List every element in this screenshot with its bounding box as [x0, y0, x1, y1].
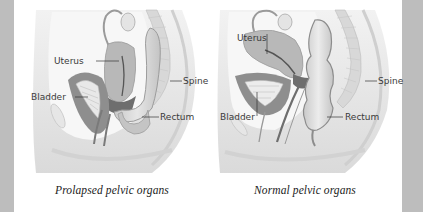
- rectum-label: Rectum: [345, 112, 379, 122]
- right-border-bar: [402, 0, 423, 212]
- uterus-label: Uterus: [237, 33, 267, 43]
- uterus-label: Uterus: [54, 56, 84, 66]
- left-border-bar: [0, 0, 14, 212]
- prolapsed-diagram-panel: Uterus Bladder Spine Rectum Prolapsed pe…: [22, 0, 202, 212]
- spine-label: Spine: [378, 76, 403, 86]
- bladder-label: Bladder: [31, 92, 66, 102]
- bladder-label: Bladder: [220, 112, 255, 122]
- normal-pelvis-illustration: [215, 0, 395, 180]
- rectum-label: Rectum: [160, 112, 194, 122]
- normal-caption: Normal pelvic organs: [215, 184, 395, 196]
- spine-label: Spine: [183, 76, 208, 86]
- normal-diagram-panel: Uterus Bladder Spine Rectum Normal pelvi…: [215, 0, 395, 212]
- prolapsed-pelvis-illustration: [22, 0, 202, 180]
- prolapsed-caption: Prolapsed pelvic organs: [22, 184, 202, 196]
